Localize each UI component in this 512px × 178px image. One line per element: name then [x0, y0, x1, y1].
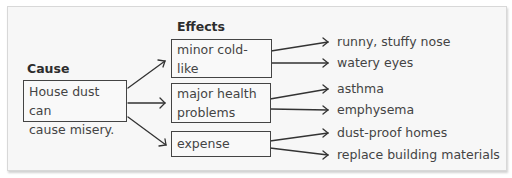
detail-asthma: asthma	[337, 81, 384, 96]
detail-watery-eyes: watery eyes	[337, 55, 413, 70]
effect-label-line1: minor cold-like	[177, 40, 266, 78]
effect-label-line1: expense	[177, 132, 265, 155]
effect-box-major-health: major health problems	[171, 83, 271, 123]
detail-replace-materials: replace building materials	[337, 147, 500, 162]
cause-box: House dust can cause misery.	[23, 80, 127, 122]
effects-heading: Effects	[177, 19, 225, 34]
effect-label-line1: major health	[177, 84, 265, 103]
cause-text-line1: House dust can	[29, 82, 121, 120]
detail-runny-nose: runny, stuffy nose	[337, 34, 450, 49]
effect-box-expense: expense	[171, 131, 271, 157]
cause-text-line2: cause misery.	[29, 120, 121, 139]
effect-box-minor-symptoms: minor cold-like symptoms	[171, 39, 272, 78]
effect-label-line2: problems	[177, 103, 265, 122]
cause-heading: Cause	[27, 61, 69, 76]
detail-emphysema: emphysema	[337, 102, 414, 117]
detail-dust-proof-homes: dust-proof homes	[337, 125, 447, 140]
